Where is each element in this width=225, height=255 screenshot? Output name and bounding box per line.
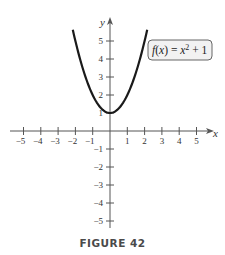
y-tick-label: 4 — [99, 54, 104, 64]
y-tick-label: −3 — [93, 180, 103, 190]
y-tick-label: −4 — [93, 198, 103, 208]
figure-caption: FIGURE 42 — [0, 237, 225, 249]
y-tick-label: −2 — [93, 162, 103, 172]
x-tick-label: −3 — [50, 136, 60, 146]
y-tick-label: 2 — [99, 90, 104, 100]
function-graph: −5−4−3−2−112345−5−4−3−2−112345 f(x) = x2… — [0, 0, 225, 255]
y-tick-label: −1 — [93, 144, 103, 154]
x-tick-label: 5 — [194, 136, 199, 146]
y-tick-label: 3 — [99, 72, 104, 82]
x-tick-label: 2 — [142, 136, 147, 146]
y-tick-label: −5 — [93, 216, 103, 226]
x-tick-label: −4 — [33, 136, 43, 146]
y-axis-label: y — [99, 16, 105, 28]
x-tick-label: 4 — [177, 136, 182, 146]
x-axis-label: x — [212, 127, 218, 139]
x-tick-label: −5 — [16, 136, 26, 146]
x-tick-label: −2 — [68, 136, 78, 146]
function-label: f(x) = x2 + 1 — [148, 40, 212, 60]
x-tick-label: 1 — [125, 136, 130, 146]
function-label-text: f(x) = x2 + 1 — [152, 43, 208, 57]
x-tick-label: 3 — [160, 136, 165, 146]
y-tick-label: 5 — [99, 36, 104, 46]
